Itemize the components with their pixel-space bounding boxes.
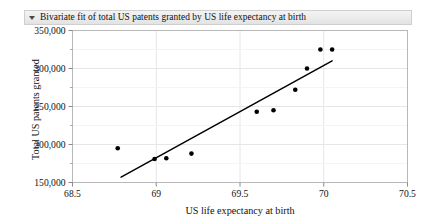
svg-text:69.5: 69.5 [232,188,249,199]
svg-text:70: 70 [319,188,329,199]
x-axis-title: US life expectancy at birth [72,205,408,216]
scatter-plot: 150,000200,000250,000300,000350,000 68.5… [0,0,430,223]
x-axis-tick-labels: 68.56969.57070.5 [64,188,416,199]
chart-canvas: 150,000200,000250,000300,000350,000 68.5… [0,0,430,223]
bivariate-fit-report: Bivariate fit of total US patents grante… [0,0,430,223]
svg-text:70.5: 70.5 [399,188,416,199]
svg-text:69: 69 [151,188,161,199]
grid-lines [73,31,408,183]
svg-text:68.5: 68.5 [64,188,81,199]
y-axis-title: Total US patents granted [30,30,41,190]
